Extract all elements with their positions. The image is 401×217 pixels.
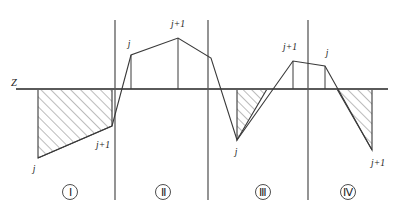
node-label-region-4-j-plus-1: j+1 xyxy=(369,158,385,168)
node-label-region-2-j-plus-1: j+1 xyxy=(169,19,185,29)
region-numeral-2: Ⅱ xyxy=(161,186,166,198)
node-label-region-4-j: j xyxy=(324,48,329,58)
node-label-region-2-j: j xyxy=(126,39,131,49)
hatched-area-region-3 xyxy=(237,89,267,140)
node-label-region-3-j-plus-1: j+1 xyxy=(281,42,297,52)
node-label-region-3-j: j xyxy=(233,147,238,157)
node-label-region-1-j: j xyxy=(31,164,36,174)
region-numeral-4: Ⅳ xyxy=(343,186,354,198)
region-numeral-3: Ⅲ xyxy=(259,186,267,198)
datum-label-z: Z xyxy=(11,77,17,88)
region-numeral-1: Ⅰ xyxy=(69,186,72,198)
node-label-region-1-j-plus-1: j+1 xyxy=(94,140,110,150)
profile-diagram: Z j j+1 j j+1 j j+1 j j+1 Ⅰ Ⅱ Ⅲ Ⅳ xyxy=(0,0,401,217)
figure-container: Z j j+1 j j+1 j j+1 j j+1 Ⅰ Ⅱ Ⅲ Ⅳ xyxy=(0,0,401,217)
